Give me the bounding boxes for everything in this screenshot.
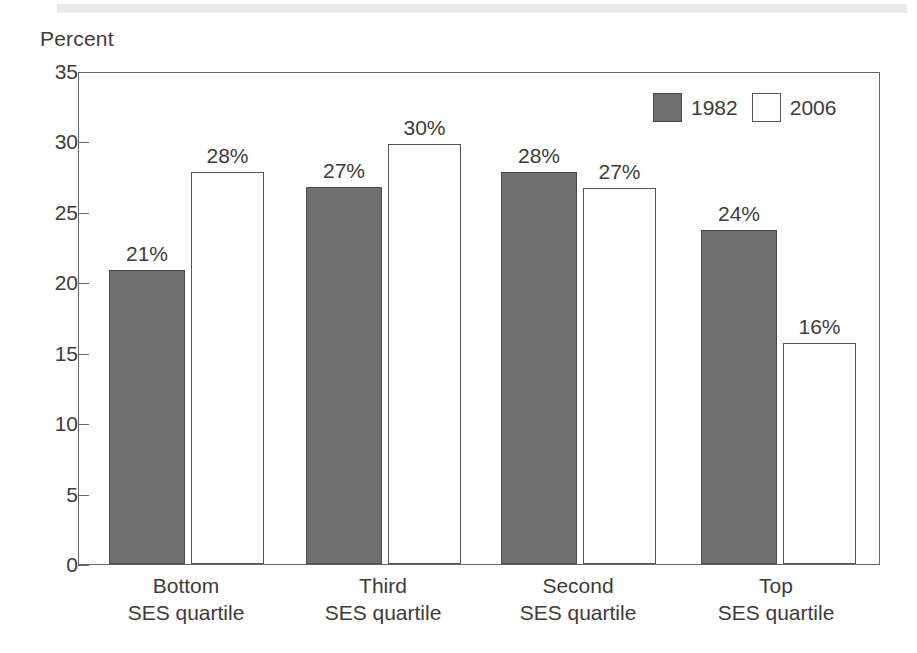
- x-group-label-line2: SES quartile: [273, 599, 493, 626]
- x-group-label-line1: Bottom: [76, 572, 296, 599]
- y-tick-mark: [78, 142, 89, 143]
- bar-2006-group-0: 28%: [191, 172, 264, 564]
- bar-2006-group-3: 16%: [783, 343, 856, 564]
- bar-value-label: 21%: [126, 242, 168, 266]
- bar-1982-group-1: 27%: [306, 187, 382, 564]
- bar-2006-group-2: 27%: [583, 188, 656, 564]
- x-group-label-line1: Third: [273, 572, 493, 599]
- bar-chart-figure: Percent 35302520151050 1982 2006 21%28%2…: [0, 0, 917, 653]
- bar-value-label: 24%: [718, 202, 760, 226]
- bar-value-label: 27%: [323, 159, 365, 183]
- x-group-label-line1: Second: [468, 572, 688, 599]
- y-axis: 35302520151050: [18, 0, 78, 653]
- x-group-label-line2: SES quartile: [666, 599, 886, 626]
- y-tick-mark: [78, 565, 89, 566]
- y-tick-label: 25: [36, 201, 78, 225]
- bar-value-label: 28%: [206, 144, 248, 168]
- x-axis-group-label-2: SecondSES quartile: [468, 572, 688, 626]
- y-tick-label: 20: [36, 271, 78, 295]
- bar-1982-group-0: 21%: [109, 270, 185, 564]
- x-axis-group-label-3: TopSES quartile: [666, 572, 886, 626]
- y-tick-mark: [78, 354, 89, 355]
- y-tick-label: 10: [36, 412, 78, 436]
- y-tick-label: 30: [36, 130, 78, 154]
- y-tick-label: 5: [36, 483, 78, 507]
- bar-value-label: 30%: [403, 116, 445, 140]
- plot-area: 1982 2006 21%28%27%30%28%27%24%16%: [78, 72, 880, 565]
- x-group-label-line1: Top: [666, 572, 886, 599]
- bar-value-label: 28%: [518, 144, 560, 168]
- x-axis-group-label-1: ThirdSES quartile: [273, 572, 493, 626]
- y-tick-label: 15: [36, 342, 78, 366]
- y-tick-mark: [78, 213, 89, 214]
- y-tick-mark: [78, 283, 89, 284]
- y-tick-label: 35: [36, 60, 78, 84]
- bar-1982-group-3: 24%: [701, 230, 777, 564]
- y-tick-mark: [78, 495, 89, 496]
- bar-1982-group-2: 28%: [501, 172, 577, 564]
- bar-2006-group-1: 30%: [388, 144, 461, 564]
- x-axis-group-label-0: BottomSES quartile: [76, 572, 296, 626]
- y-tick-mark: [78, 424, 89, 425]
- scan-artifact-strip: [57, 4, 907, 13]
- bar-value-label: 27%: [598, 160, 640, 184]
- bar-value-label: 16%: [798, 315, 840, 339]
- x-group-label-line2: SES quartile: [76, 599, 296, 626]
- x-group-label-line2: SES quartile: [468, 599, 688, 626]
- y-tick-label: 0: [36, 553, 78, 577]
- bars-layer: 21%28%27%30%28%27%24%16%: [79, 73, 879, 564]
